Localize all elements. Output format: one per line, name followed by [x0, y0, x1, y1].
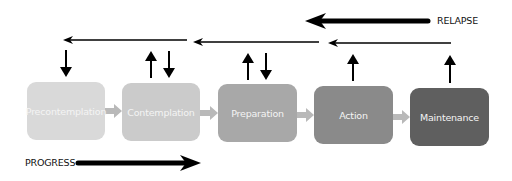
stage-maintenance: Maintenance	[410, 88, 489, 146]
stage-preparation: Preparation	[218, 84, 297, 142]
relapse-arrow	[305, 13, 428, 29]
progress-arrow	[78, 155, 201, 171]
stage-label: Contemplation	[127, 107, 194, 118]
stage-label: Preparation	[231, 108, 284, 119]
feedback-arrow-3	[328, 39, 451, 47]
feedback-arrow-1	[63, 36, 187, 44]
up-arrow-preparation	[242, 53, 254, 80]
down-arrow-precontemplation	[60, 50, 72, 77]
stage-action: Action	[314, 86, 393, 144]
up-arrow-maintenance	[444, 55, 456, 83]
stage-contemplation: Contemplation	[122, 83, 200, 141]
stage-label: Action	[339, 110, 368, 121]
stages-of-change-diagram: Precontemplation Contemplation Preparati…	[0, 0, 512, 181]
up-arrow-action	[347, 54, 359, 81]
feedback-arrow-2	[193, 38, 319, 46]
stage-precontemplation: Precontemplation	[27, 82, 105, 140]
down-arrow-contemplation	[163, 51, 175, 78]
stage-label: Precontemplation	[26, 106, 106, 117]
relapse-label: RELAPSE	[437, 15, 478, 26]
stage-label: Maintenance	[420, 112, 479, 123]
up-arrow-contemplation	[145, 51, 157, 78]
down-arrow-preparation	[260, 53, 272, 80]
progress-label: PROGRESS	[25, 157, 75, 168]
